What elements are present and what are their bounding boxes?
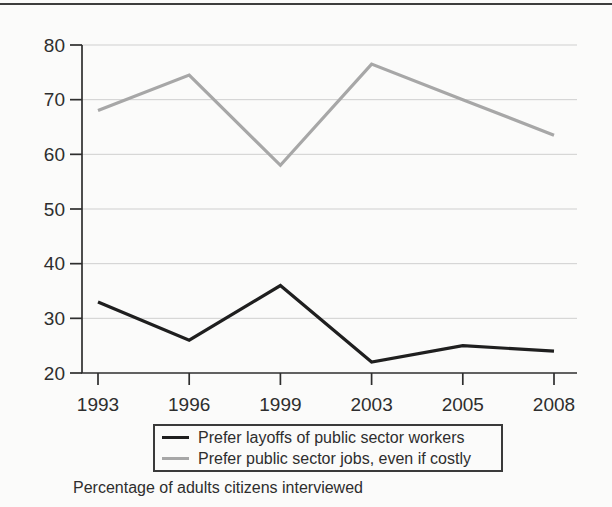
y-tick-label: 60 [44, 144, 65, 165]
x-tick-label: 1993 [77, 394, 119, 415]
legend-label: Prefer public sector jobs, even if costl… [198, 450, 471, 468]
y-tick-label: 30 [44, 308, 65, 329]
x-tick-label: 1999 [259, 394, 301, 415]
series-line-prefer-public-sector-jobs-even-if-costly [98, 64, 554, 165]
y-tick-label: 20 [44, 363, 65, 384]
legend-item-prefer-public-jobs: Prefer public sector jobs, even if costl… [155, 448, 501, 469]
y-tick-label: 70 [44, 89, 65, 110]
legend-item-prefer-layoffs: Prefer layoffs of public sector workers [155, 427, 501, 448]
black-line-swatch-icon [162, 436, 189, 439]
y-tick-label: 80 [44, 35, 65, 56]
x-tick-label: 1996 [168, 394, 210, 415]
legend: Prefer layoffs of public sector workers … [153, 424, 503, 472]
y-tick-label: 40 [44, 253, 65, 274]
gray-line-swatch-icon [162, 457, 189, 460]
chart-caption: Percentage of adults citizens interviewe… [73, 479, 363, 497]
y-tick-label: 50 [44, 199, 65, 220]
series-line-prefer-layoffs-of-public-sector-workers [98, 286, 554, 363]
line-chart: 20304050607080199319961999200320052008 [0, 0, 612, 420]
x-tick-label: 2005 [442, 394, 484, 415]
legend-label: Prefer layoffs of public sector workers [198, 429, 464, 447]
x-tick-label: 2003 [350, 394, 392, 415]
x-tick-label: 2008 [533, 394, 575, 415]
